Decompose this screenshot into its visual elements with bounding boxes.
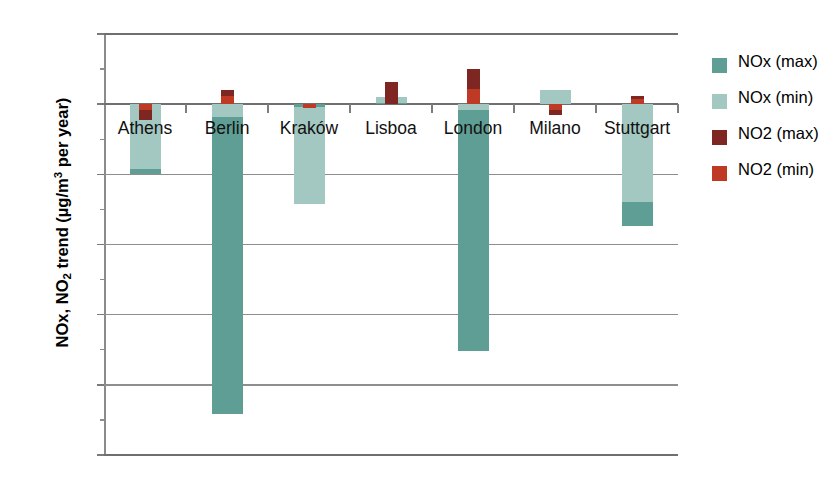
y-axis-title-mid: trend (µg/m (53, 178, 71, 273)
y-axis-tick (97, 103, 104, 105)
x-axis-tick (677, 104, 678, 113)
y-axis-title-sup: 3 (52, 172, 64, 178)
y-axis-minor-tick (100, 419, 104, 420)
category-label-london: London (432, 118, 514, 139)
gridline (104, 33, 678, 34)
category-label-athens: Athens (104, 118, 186, 139)
legend-swatch-icon (712, 94, 727, 109)
y-axis-minor-tick (100, 279, 104, 280)
category-label-milano: Milano (514, 118, 596, 139)
legend-swatch-icon (712, 58, 727, 73)
y-axis-title-sub: 2 (61, 273, 73, 279)
bar-no2-min-milano[interactable] (549, 104, 562, 110)
chart-canvas: NOx, NO2 trend (µg/m3 per year) 50-5-10-… (0, 0, 840, 490)
gridline (104, 174, 678, 175)
y-axis-tick (97, 244, 104, 246)
y-axis-minor-tick (100, 349, 104, 350)
y-axis-tick (97, 384, 104, 386)
bar-no2-min-kraków[interactable] (303, 104, 316, 108)
bar-nox-max-berlin[interactable] (212, 104, 243, 414)
y-axis-tick (97, 33, 104, 35)
legend-swatch-icon (712, 166, 727, 181)
category-label-berlin: Berlin (186, 118, 268, 139)
bar-nox-min-milano[interactable] (540, 90, 571, 104)
bar-nox-max-london[interactable] (458, 104, 489, 351)
x-axis-tick (349, 104, 350, 113)
y-axis-title: NOx, NO2 trend (µg/m3 per year) (53, 43, 72, 403)
bar-no2-min-berlin[interactable] (221, 96, 234, 104)
category-label-kraków: Kraków (268, 118, 350, 139)
bar-no2-max-lisboa[interactable] (385, 82, 398, 104)
gridline (104, 384, 678, 385)
x-axis-tick (185, 104, 186, 113)
bar-no2-min-stuttgart[interactable] (631, 99, 644, 104)
y-axis-title-suffix: per year) (53, 98, 71, 172)
y-axis-tick (97, 454, 104, 456)
legend-swatch-icon (712, 130, 727, 145)
x-axis-tick (267, 104, 268, 113)
plot-area: 50-5-10-15-20-25AthensBerlinKrakówLisboa… (104, 34, 678, 455)
y-axis-tick (97, 174, 104, 176)
y-axis-minor-tick (100, 209, 104, 210)
legend-label: NO2 (min) (738, 160, 814, 179)
legend-label: NOx (min) (738, 88, 813, 107)
x-axis-tick (431, 104, 432, 113)
x-axis-tick (595, 104, 596, 113)
bar-nox-min-berlin[interactable] (212, 104, 243, 117)
y-axis-title-prefix: NOx, NO (53, 280, 71, 348)
y-axis-minor-tick (100, 68, 104, 69)
gridline (104, 244, 678, 245)
y-axis-tick (97, 314, 104, 316)
gridline (104, 454, 678, 455)
bar-no2-min-london[interactable] (467, 89, 480, 104)
x-axis-tick (513, 104, 514, 113)
category-label-stuttgart: Stuttgart (596, 118, 678, 139)
legend-label: NOx (max) (738, 52, 818, 71)
gridline (104, 314, 678, 315)
category-label-lisboa: Lisboa (350, 118, 432, 139)
bar-nox-min-london[interactable] (458, 104, 489, 110)
legend-label: NO2 (max) (738, 124, 819, 143)
bar-no2-min-athens[interactable] (139, 104, 152, 110)
